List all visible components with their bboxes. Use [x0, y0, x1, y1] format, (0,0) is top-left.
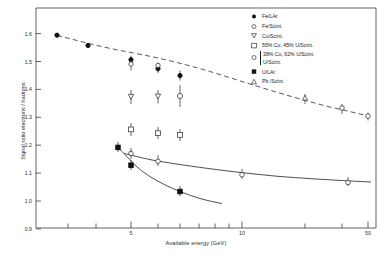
legend-item-fe-scint: Fe/Scint. [249, 22, 389, 32]
legend-label-line2: U/Scint. [263, 58, 314, 66]
legend-label: U/LAr [262, 68, 275, 76]
filled-circle-icon [249, 12, 260, 22]
legend-label: Cu/Scint. [262, 32, 283, 40]
y-tick-label: 1.6 [12, 31, 32, 37]
chart-legend: Fe/LAr Fe/Scint. Cu/Scint. 55% Cu, 45% U… [249, 12, 389, 87]
x-tick-label: 10 [232, 230, 252, 236]
legend-label: 55% Cu, 45% U/Scint. [262, 41, 313, 49]
x-tick-label: 5 [121, 230, 141, 236]
open-circle-icon [249, 22, 260, 32]
series-u-scint-points [129, 148, 351, 186]
figure-container: 1.6 1.5 1.4 1.3 1.2 1.1 1.0 0.9 5 10 50 … [0, 0, 392, 257]
y-axis-ticks [36, 34, 41, 229]
legend-label: Pb /Scint. [262, 77, 284, 85]
y-axis-label: Signal ratio electrons / hadrons [20, 51, 26, 191]
series-pb-scint-points [302, 94, 307, 104]
legend-item-u-scint: 38% Cu, 62% U/Scint. U/Scint. [249, 50, 389, 67]
legend-label: 38% Cu, 62% U/Scint. U/Scint. [263, 50, 314, 66]
legend-item-u-lar: U/LAr [249, 67, 389, 77]
y-tick-label: 1.0 [12, 198, 32, 204]
legend-item-fe-lar: Fe/LAr [249, 12, 389, 22]
series-fe-lar-points [55, 33, 182, 80]
series-cu-u-55-points [129, 123, 183, 141]
legend-label: Fe/Scint. [262, 22, 282, 30]
x-tick-label: 50 [358, 230, 378, 236]
filled-square-icon [249, 67, 260, 77]
legend-item-cu-scint: Cu/Scint. [249, 31, 389, 41]
legend-brace [260, 51, 262, 65]
open-triangle-up-icon [249, 77, 260, 87]
x-axis-ticks [68, 222, 368, 229]
legend-item-cu-u-55: 55% Cu, 45% U/Scint. [249, 41, 389, 51]
x-axis-label: Available energy (GeV) [0, 240, 392, 246]
legend-label-line1: 38% Cu, 62% U/Scint. [263, 50, 314, 58]
legend-item-pb-scint: Pb /Scint. [249, 77, 389, 87]
legend-label: Fe/LAr [262, 12, 278, 20]
open-square-icon [249, 41, 260, 51]
open-circle-icon [249, 50, 260, 67]
series-cu-scint-points [128, 90, 160, 104]
y-tick-label: 0.9 [12, 226, 32, 232]
open-triangle-down-icon [249, 31, 260, 41]
curve-middle-solid [124, 154, 371, 183]
